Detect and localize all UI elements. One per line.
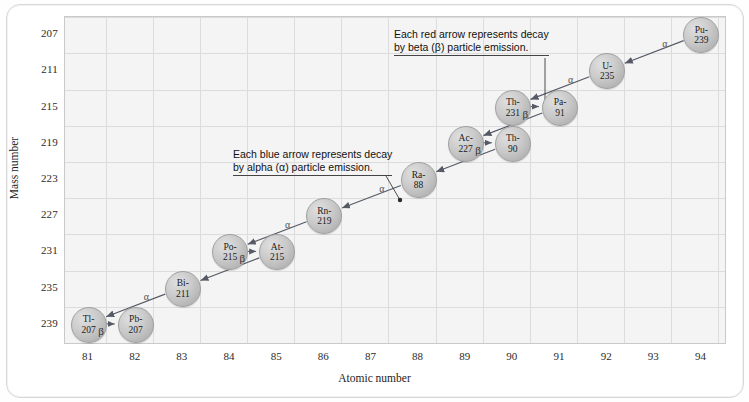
gridline-vertical: [530, 17, 531, 343]
x-tick-label: 85: [256, 350, 296, 362]
nuclide-symbol: Bi-: [177, 278, 189, 289]
x-tick-label: 88: [398, 350, 438, 362]
gridline-vertical: [577, 17, 578, 343]
x-tick-label: 93: [633, 350, 673, 362]
nuclide-number: 219: [317, 216, 331, 227]
nuclide-symbol: Pa-: [554, 97, 567, 108]
nuclide-node-th-227[interactable]: Th-90: [495, 126, 531, 162]
nuclide-number: 207: [81, 325, 95, 336]
gridline-vertical: [294, 17, 295, 343]
x-tick-label: 84: [209, 350, 249, 362]
x-tick-label: 90: [492, 350, 532, 362]
annotation-red-line1: Each red arrow represents decay: [394, 28, 549, 41]
y-tick-label: 223: [18, 172, 58, 184]
x-tick-label: 94: [680, 350, 720, 362]
y-tick-label: 211: [18, 63, 58, 75]
nuclide-symbol: Tl-: [83, 314, 95, 325]
nuclide-number: 231: [506, 108, 520, 119]
y-tick-label: 231: [18, 244, 58, 256]
nuclide-symbol: Th-: [506, 97, 520, 108]
y-tick-label: 215: [18, 100, 58, 112]
gridline-horizontal: [65, 90, 725, 91]
gridlines: [65, 17, 725, 343]
alpha-symbol: α: [144, 291, 149, 302]
nuclide-number: 88: [414, 180, 424, 191]
x-tick-label: 92: [586, 350, 626, 362]
nuclide-number: 91: [555, 108, 565, 119]
beta-symbol: β: [475, 144, 481, 156]
annotation-red-line2: by beta (β) particle emission.: [394, 41, 549, 56]
gridline-horizontal: [65, 17, 725, 18]
nuclide-symbol: Ra-: [412, 170, 426, 181]
nuclide-node-ra-223[interactable]: Ra-88: [401, 162, 437, 198]
y-tick-label: 235: [18, 281, 58, 293]
gridline-vertical: [341, 17, 342, 343]
y-tick-label: 207: [18, 27, 58, 39]
nuclide-symbol: Ac-: [459, 133, 473, 144]
nuclide-number: 239: [694, 35, 708, 46]
gridline-vertical: [718, 17, 719, 343]
plot-area: [64, 16, 726, 344]
x-tick-label: 81: [68, 350, 108, 362]
x-tick-label: 86: [303, 350, 343, 362]
nuclide-node-bi-211[interactable]: Bi-211: [165, 271, 201, 307]
gridline-vertical: [671, 17, 672, 343]
y-tick-label: 219: [18, 136, 58, 148]
x-tick-label: 82: [115, 350, 155, 362]
beta-symbol: β: [240, 252, 246, 264]
nuclide-number: 90: [508, 144, 518, 155]
nuclide-number: 235: [600, 71, 614, 82]
x-axis-title: Atomic number: [0, 372, 749, 384]
gridline-vertical: [153, 17, 154, 343]
figure-root: 239235231227223219215211207 818283848586…: [0, 0, 749, 402]
nuclide-number: 207: [129, 325, 143, 336]
nuclide-number: 211: [176, 289, 190, 300]
annotation-red-arrow: Each red arrow represents decay by beta …: [394, 28, 549, 56]
gridline-vertical: [483, 17, 484, 343]
alpha-symbol: α: [568, 74, 573, 85]
gridline-horizontal: [65, 307, 725, 308]
nuclide-node-pa-231[interactable]: Pa-91: [542, 90, 578, 126]
y-tick-label: 239: [18, 317, 58, 329]
nuclide-number: 215: [270, 252, 284, 263]
gridline-vertical: [106, 17, 107, 343]
annotation-blue-arrow: Each blue arrow represents decay by alph…: [233, 148, 392, 176]
alpha-symbol: α: [285, 219, 290, 230]
x-tick-label: 89: [445, 350, 485, 362]
beta-symbol: β: [98, 325, 104, 337]
alpha-symbol: α: [379, 183, 384, 194]
annotation-blue-line1: Each blue arrow represents decay: [233, 148, 392, 161]
nuclide-number: 227: [459, 144, 473, 155]
alpha-symbol: α: [662, 38, 667, 49]
gridline-vertical: [388, 17, 389, 343]
annotation-blue-line2: by alpha (α) particle emission.: [233, 161, 392, 176]
gridline-horizontal: [65, 162, 725, 163]
x-tick-label: 91: [539, 350, 579, 362]
x-tick-label: 83: [162, 350, 202, 362]
nuclide-symbol: U-: [602, 61, 612, 72]
nuclide-node-pb-207[interactable]: Pb-207: [118, 307, 154, 343]
nuclide-symbol: At-: [271, 242, 284, 253]
nuclide-symbol: Po-: [223, 242, 236, 253]
gridline-horizontal: [65, 234, 725, 235]
nuclide-number: 215: [223, 252, 237, 263]
gridline-vertical: [247, 17, 248, 343]
gridline-horizontal: [65, 198, 725, 199]
nuclide-symbol: Pu-: [695, 25, 708, 36]
nuclide-symbol: Th-: [506, 133, 520, 144]
beta-symbol: β: [522, 108, 528, 120]
gridline-horizontal: [65, 126, 725, 127]
y-axis-title: Mass number: [8, 137, 20, 199]
nuclide-symbol: Pb-: [129, 314, 142, 325]
y-tick-label: 227: [18, 208, 58, 220]
nuclide-symbol: Rn-: [317, 206, 331, 217]
gridline-horizontal: [65, 271, 725, 272]
x-tick-label: 87: [350, 350, 390, 362]
